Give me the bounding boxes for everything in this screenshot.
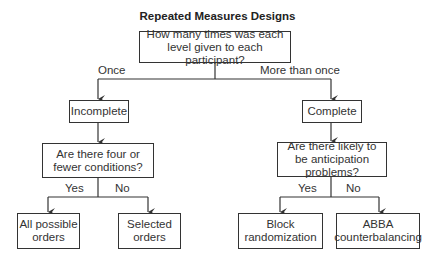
leaf-selected-orders-text: Selected orders — [119, 218, 180, 244]
left-question-text: Are there four or fewer conditions? — [43, 148, 153, 174]
right-question-box: Are there likely to be anticipation prob… — [277, 142, 387, 177]
leaf-block-randomization-text: Block randomization — [234, 218, 326, 244]
branch-label-more-than-once: More than once — [260, 64, 340, 76]
branch-label-once: Once — [98, 64, 126, 76]
left-question-box: Are there four or fewer conditions? — [42, 143, 154, 178]
left-no-label: No — [115, 182, 130, 194]
leaf-all-possible-orders: All possible orders — [17, 213, 80, 249]
leaf-abba-counterbalancing: ABBA counterbalancing — [336, 213, 420, 249]
right-no-label: No — [346, 182, 361, 194]
leaf-abba-counterbalancing-text: ABBA counterbalancing — [322, 218, 434, 244]
complete-box: Complete — [302, 100, 362, 123]
leaf-selected-orders: Selected orders — [118, 213, 181, 249]
root-question-text: How many times was each level given to e… — [140, 28, 290, 67]
incomplete-text: Incomplete — [71, 105, 127, 118]
left-yes-label: Yes — [65, 182, 84, 194]
complete-text: Complete — [307, 105, 356, 118]
diagram-title: Repeated Measures Designs — [0, 10, 435, 22]
right-yes-label: Yes — [298, 182, 317, 194]
right-question-text: Are there likely to be anticipation prob… — [278, 140, 386, 179]
leaf-block-randomization: Block randomization — [238, 213, 323, 249]
incomplete-box: Incomplete — [69, 100, 129, 123]
root-question-box: How many times was each level given to e… — [139, 31, 291, 63]
leaf-all-possible-orders-text: All possible orders — [18, 218, 79, 244]
